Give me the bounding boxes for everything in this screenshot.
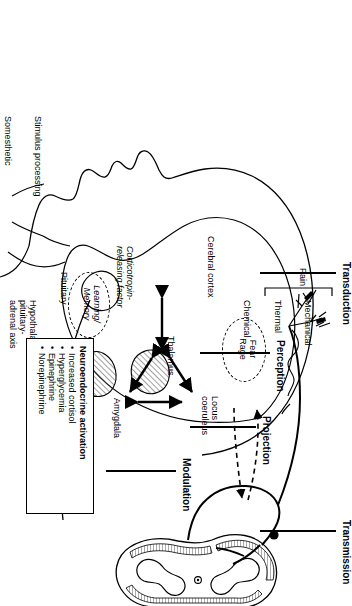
projection-label: Projection <box>261 416 272 465</box>
modality-mechanical: Mechanical <box>303 300 313 346</box>
fear-rage-label: Fear Rage <box>238 318 259 380</box>
locus-coeruleus-label: Locus coeruleus <box>200 396 221 435</box>
modulation-label: Modulation <box>181 458 192 511</box>
transduction-label: Transduction <box>341 262 352 325</box>
modality-thermal: Thermal <box>273 300 283 346</box>
cerebral-cortex-label: Cerebral cortex <box>206 236 216 298</box>
list-item: Increased cortisol <box>67 346 77 506</box>
transmission-label: Transmission <box>341 520 352 584</box>
transmission-rule <box>260 530 336 532</box>
thalamus-label: Thalamus <box>166 336 176 376</box>
pain-label: Pain <box>298 268 308 286</box>
stimulus-line-2: Somesthetic <box>3 116 13 197</box>
neuroendocrine-title: Neuroendocrine activation <box>78 346 88 506</box>
list-item: Hyperglycemia <box>57 346 67 506</box>
neuroendocrine-list: Increased cortisol Hyperglycemia Epineph… <box>37 346 77 506</box>
box-neuroendocrine-activation: Neuroendocrine activation Increased cort… <box>26 338 94 514</box>
perception-label: Perception <box>275 340 286 392</box>
learning-memory-label: Learning/ Memory <box>82 272 103 336</box>
list-item: Epinephrine <box>47 346 57 506</box>
crf-text: Corticotropin- releasing factor <box>115 246 136 308</box>
modulation-rule <box>106 470 176 472</box>
list-item: Norepinephrine <box>37 346 47 506</box>
pituitary-label-2: Pituitary <box>59 272 69 305</box>
figure-canvas: Stimulus processing Somesthetic Visual A… <box>0 0 352 606</box>
stimulus-processing-label: Stimulus processing Somesthetic Visual A… <box>0 116 64 197</box>
stimulus-line-1: Stimulus processing <box>33 116 43 197</box>
amygdala-label: Amygdala <box>112 398 122 438</box>
